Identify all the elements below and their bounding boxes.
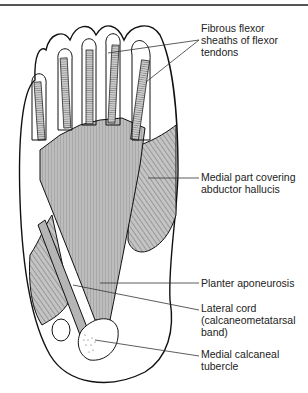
label-medial-part: Medial part covering abductor hallucis: [201, 171, 296, 195]
label-medial-calcaneal-tubercle: Medial calcaneal tubercle: [201, 348, 279, 372]
heel-oval: [52, 319, 70, 341]
label-planter-aponeurosis: Planter aponeurosis: [201, 277, 294, 289]
tendon-3: [86, 50, 93, 124]
label-fibrous-flexor-sheaths: Fibrous flexor sheaths of flexor tendons: [201, 22, 278, 58]
label-lateral-cord: Lateral cord (calcaneometatarsal band): [201, 302, 296, 338]
